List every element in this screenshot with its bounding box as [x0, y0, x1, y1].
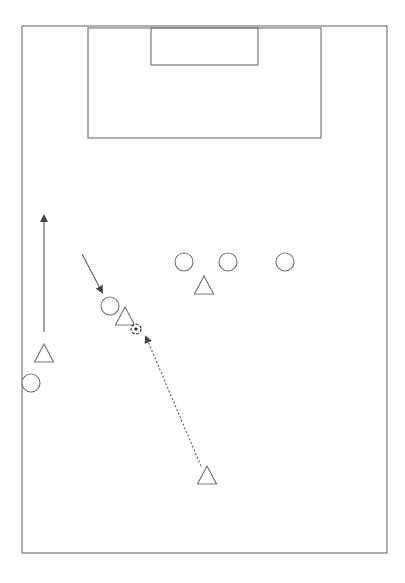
player-triangle-icon	[198, 466, 217, 484]
player-triangle-icon	[195, 276, 214, 294]
pitch-diagram	[0, 0, 405, 583]
ball-icon	[131, 324, 141, 334]
goal-box	[151, 28, 258, 65]
player-circle-icon	[175, 253, 193, 271]
penalty-box	[88, 28, 321, 138]
player-triangle-icon	[35, 344, 54, 362]
player-circle-icon	[22, 374, 40, 392]
player-circle-icon	[276, 253, 294, 271]
run-arrow-icon	[82, 254, 102, 292]
pass-arrow-icon	[146, 337, 201, 466]
ball-center	[134, 327, 137, 330]
player-circle-icon	[101, 297, 119, 315]
players	[22, 253, 294, 484]
player-circle-icon	[219, 253, 237, 271]
movement-arrows	[44, 216, 201, 466]
